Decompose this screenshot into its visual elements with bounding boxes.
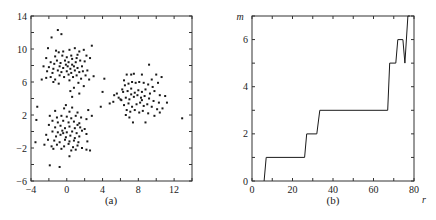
scatter-point xyxy=(70,149,72,151)
scatter-point xyxy=(129,111,131,113)
scatter-point xyxy=(51,120,53,122)
scatter-point xyxy=(76,74,78,76)
scatter-point xyxy=(130,88,132,90)
scatter-point xyxy=(68,155,70,157)
line-plot-panel-b: 0204060800246 m r (b) xyxy=(236,11,426,207)
scatter-point xyxy=(116,93,118,95)
scatter-point xyxy=(57,69,59,71)
scatter-point xyxy=(75,115,77,117)
scatter-point xyxy=(140,97,142,99)
scatter-point xyxy=(68,74,70,76)
scatter-point xyxy=(144,95,146,97)
scatter-point xyxy=(89,149,91,151)
y-tick-label: 2 xyxy=(243,128,248,139)
scatter-point xyxy=(64,139,66,141)
scatter-points xyxy=(34,29,183,168)
scatter-point xyxy=(153,90,155,92)
scatter-point xyxy=(74,137,76,139)
y-tick-label: −6 xyxy=(16,176,27,187)
scatter-point xyxy=(64,60,66,62)
scatter-point xyxy=(60,125,62,127)
scatter-point xyxy=(60,33,62,35)
scatter-point xyxy=(81,130,83,132)
scatter-point xyxy=(51,131,53,133)
scatter-point xyxy=(156,108,158,110)
scatter-point xyxy=(68,61,70,63)
scatter-point xyxy=(70,117,72,119)
scatter-point xyxy=(50,61,52,63)
scatter-point xyxy=(93,75,95,77)
scatter-point xyxy=(49,164,51,166)
scatter-point xyxy=(77,54,79,56)
scatter-point xyxy=(126,74,128,76)
scatter-point xyxy=(84,128,86,130)
scatter-point xyxy=(36,106,38,108)
scatter-point xyxy=(151,106,153,108)
scatter-point xyxy=(59,166,61,168)
scatter-point xyxy=(121,88,123,90)
scatter-point xyxy=(131,81,133,83)
scatter-point xyxy=(75,61,77,63)
x-tick-label: 20 xyxy=(288,184,298,195)
scatter-point xyxy=(125,114,127,116)
scatter-point xyxy=(131,106,133,108)
scatter-point xyxy=(65,136,67,138)
x-axis-label-r: r xyxy=(422,194,426,205)
scatter-point xyxy=(43,65,45,67)
scatter-point xyxy=(68,126,70,128)
scatter-point xyxy=(54,55,56,57)
scatter-point xyxy=(66,131,68,133)
scatter-point xyxy=(89,57,91,59)
scatter-point xyxy=(55,50,57,52)
scatter-point xyxy=(123,104,125,106)
scatter-point xyxy=(52,81,54,83)
scatter-point xyxy=(147,83,149,85)
scatter-point xyxy=(54,79,56,81)
scatter-point xyxy=(127,102,129,104)
scatter-point xyxy=(155,74,157,76)
scatter-point xyxy=(148,98,150,100)
scatter-point xyxy=(78,71,80,73)
figure: −404812−6−2261014 (a) 0204060800246 m r … xyxy=(0,0,436,220)
scatter-point xyxy=(51,145,53,147)
x-tick-label: 0 xyxy=(250,184,255,195)
y-tick-label: 6 xyxy=(243,34,248,45)
scatter-point xyxy=(52,68,54,70)
scatter-plot-panel-a: −404812−6−2261014 (a) xyxy=(16,11,192,208)
scatter-point xyxy=(158,102,160,104)
panel-label-b: (b) xyxy=(327,194,340,207)
y-tick-label: −2 xyxy=(16,143,27,154)
scatter-point xyxy=(124,84,126,86)
scatter-point xyxy=(141,91,143,93)
axis-ticks-b xyxy=(252,16,414,181)
scatter-point xyxy=(57,29,59,31)
scatter-point xyxy=(134,109,136,111)
scatter-point xyxy=(62,132,64,134)
scatter-point xyxy=(66,56,68,58)
y-axis-label-m: m xyxy=(236,11,243,22)
scatter-point xyxy=(71,131,73,133)
scatter-point xyxy=(100,106,102,108)
scatter-point xyxy=(63,145,65,147)
scatter-point xyxy=(118,97,120,99)
plot-frame-a xyxy=(31,16,192,181)
scatter-point xyxy=(151,79,153,81)
scatter-point xyxy=(103,78,105,80)
scatter-point xyxy=(68,49,70,51)
scatter-point xyxy=(128,116,130,118)
scatter-point xyxy=(62,50,64,52)
scatter-point xyxy=(113,94,115,96)
scatter-point xyxy=(57,121,59,123)
scatter-point xyxy=(134,92,136,94)
x-tick-label: 80 xyxy=(409,184,419,195)
scatter-point xyxy=(132,121,134,123)
scatter-point xyxy=(66,116,68,118)
scatter-point xyxy=(144,88,146,90)
panel-label-a: (a) xyxy=(105,194,118,207)
scatter-point xyxy=(127,83,129,85)
scatter-point xyxy=(81,147,83,149)
scatter-point xyxy=(88,79,90,81)
scatter-point xyxy=(148,64,150,66)
scatter-point xyxy=(85,118,87,120)
scatter-point xyxy=(161,107,163,109)
